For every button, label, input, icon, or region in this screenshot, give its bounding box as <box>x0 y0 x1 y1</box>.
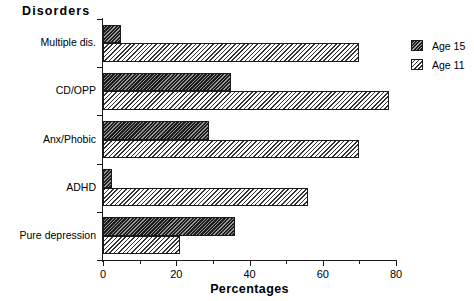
x-axis-tick-label: 0 <box>83 268 123 280</box>
y-axis-tick <box>97 260 102 261</box>
bar-age-15-anx-phobic <box>103 121 209 140</box>
category-label-adhd: ADHD <box>0 181 96 193</box>
bar-age-11-cd-opp <box>103 91 389 110</box>
x-axis-tick-label: 20 <box>156 268 196 280</box>
y-axis-tick <box>97 115 102 116</box>
x-axis-tick-label: 80 <box>376 268 416 280</box>
y-axis-tick <box>97 19 102 20</box>
bar-age-15-multiple-dis <box>103 25 121 44</box>
y-axis-tick <box>97 164 102 165</box>
legend-label-age-15: Age 15 <box>432 40 465 52</box>
category-label-multiple-dis: Multiple dis. <box>0 36 96 48</box>
y-axis-tick <box>97 67 102 68</box>
y-axis-tick <box>97 212 102 213</box>
chart-legend: Age 15 Age 11 <box>411 36 465 74</box>
x-axis-tick-minor <box>140 261 141 264</box>
category-label-anx-phobic: Anx/Phobic <box>0 133 96 145</box>
x-axis-tick-major <box>250 261 251 266</box>
x-axis-tick-major <box>176 261 177 266</box>
legend-swatch-dark-hatch-icon <box>411 40 423 51</box>
x-axis-title: Percentages <box>103 282 396 296</box>
bar-age-15-adhd <box>103 169 112 188</box>
bar-age-11-anx-phobic <box>103 140 359 159</box>
bar-chart: Disorders Multiple dis.CD/OPPAnx/PhobicA… <box>0 0 474 301</box>
legend-item-age-11: Age 11 <box>411 55 465 74</box>
x-axis-tick-minor <box>213 261 214 264</box>
category-label-pure-depression: Pure depression <box>0 229 96 241</box>
x-axis-tick-minor <box>286 261 287 264</box>
bar-age-11-adhd <box>103 188 308 207</box>
x-axis-tick-major <box>396 261 397 266</box>
y-axis-title: Disorders <box>22 4 90 18</box>
legend-item-age-15: Age 15 <box>411 36 465 55</box>
x-axis-tick-label: 60 <box>303 268 343 280</box>
bar-age-15-cd-opp <box>103 73 231 92</box>
bar-age-11-pure-depression <box>103 236 180 255</box>
x-axis-tick-major <box>103 261 104 266</box>
x-axis-tick-major <box>323 261 324 266</box>
bar-age-11-multiple-dis <box>103 43 359 62</box>
category-label-cd-opp: CD/OPP <box>0 84 96 96</box>
x-axis-tick-minor <box>359 261 360 264</box>
x-axis-tick-label: 40 <box>230 268 270 280</box>
legend-swatch-light-hatch-icon <box>411 59 423 70</box>
legend-label-age-11: Age 11 <box>432 59 465 71</box>
bar-age-15-pure-depression <box>103 217 235 236</box>
